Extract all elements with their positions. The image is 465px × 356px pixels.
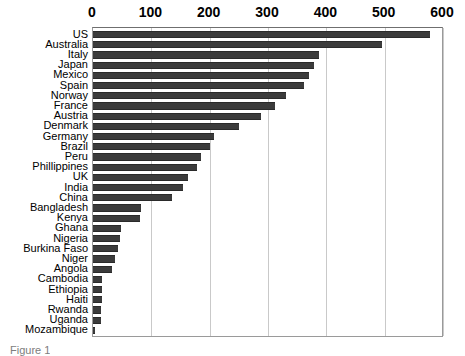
x-tick-label-600: 600 [430,4,453,20]
bar-series [93,28,442,336]
bar-row [93,285,442,295]
bar-row [93,305,442,315]
bar-row [93,163,442,173]
bar-mexico [93,72,309,79]
x-tick-label-0: 0 [88,4,96,20]
bar-austria [93,113,261,120]
bar-row [93,224,442,234]
bar-norway [93,92,286,99]
figure-caption: Figure 1 [10,344,50,356]
bar-row [93,81,442,91]
bar-row [93,50,442,60]
bar-italy [93,51,319,58]
bar-angola [93,266,112,273]
bar-ghana [93,225,121,232]
bar-row [93,30,442,40]
bar-mozambique [93,327,95,334]
category-label-mexico: Mexico [53,69,88,79]
bar-burkina-faso [93,245,118,252]
bar-china [93,194,172,201]
bar-chart: 0100200300400500600 USAustraliaItalyJapa… [0,0,465,356]
bar-row [93,101,442,111]
bar-us [93,31,430,38]
bar-row [93,234,442,244]
bar-row [93,152,442,162]
x-tick-label-500: 500 [372,4,395,20]
bar-cambodia [93,276,102,283]
bar-row [93,193,442,203]
bar-uganda [93,317,101,324]
bar-germany [93,133,214,140]
bar-row [93,203,442,213]
x-tick-label-300: 300 [255,4,278,20]
bar-row [93,183,442,193]
bar-denmark [93,123,239,130]
x-tick-label-400: 400 [314,4,337,20]
category-label-uk: UK [73,171,88,181]
bar-peru [93,153,201,160]
bar-phillippines [93,164,197,171]
bar-brazil [93,143,210,150]
bar-row [93,112,442,122]
bar-row [93,40,442,50]
bar-japan [93,62,314,69]
x-axis-tick-labels: 0100200300400500600 [0,4,465,24]
bar-australia [93,41,382,48]
bar-haiti [93,296,102,303]
bar-row [93,265,442,275]
bar-uk [93,174,188,181]
gridline-600 [443,28,444,336]
bar-row [93,142,442,152]
category-label-ghana: Ghana [55,222,88,232]
category-label-denmark: Denmark [43,120,88,130]
bar-row [93,132,442,142]
bar-row [93,316,442,326]
x-tick-label-100: 100 [139,4,162,20]
bar-row [93,173,442,183]
category-label-cambodia: Cambodia [38,273,88,283]
bar-rwanda [93,306,101,313]
bar-row [93,295,442,305]
bar-row [93,91,442,101]
bar-france [93,102,275,109]
bar-row [93,71,442,81]
bar-niger [93,255,115,262]
bar-row [93,214,442,224]
category-axis-labels: USAustraliaItalyJapanMexicoSpainNorwayFr… [0,27,90,337]
bar-row [93,61,442,71]
bar-bangladesh [93,204,141,211]
bar-row [93,326,442,336]
bar-row [93,122,442,132]
bar-row [93,254,442,264]
bar-row [93,244,442,254]
bar-ethiopia [93,286,102,293]
bar-spain [93,82,304,89]
bar-kenya [93,215,140,222]
category-label-mozambique: Mozambique [25,324,88,334]
bar-row [93,275,442,285]
x-tick-label-200: 200 [197,4,220,20]
bar-nigeria [93,235,120,242]
bar-india [93,184,183,191]
plot-area [92,27,443,337]
